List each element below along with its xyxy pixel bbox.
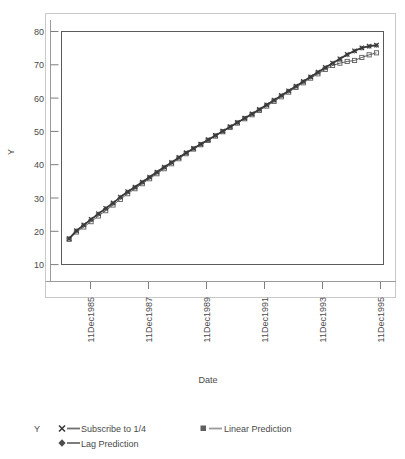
y-tick-label: 80 bbox=[34, 27, 44, 37]
y-axis-ticks: 80 70 60 50 40 30 20 10 bbox=[34, 27, 59, 270]
square-icon bbox=[201, 426, 207, 432]
y-tick-label: 60 bbox=[34, 94, 44, 104]
x-tick-label: 11Dec1991 bbox=[260, 297, 270, 342]
chart-svg: 80 70 60 50 40 30 20 10 Y bbox=[0, 0, 405, 459]
legend-item-lag[interactable]: Lag Prediction bbox=[58, 439, 138, 449]
y-tick-label: 30 bbox=[34, 194, 44, 204]
x-axis-ticks bbox=[91, 282, 381, 289]
y-tick-label: 10 bbox=[34, 260, 44, 270]
cross-icon bbox=[59, 426, 65, 432]
legend-item-linear[interactable]: Linear Prediction bbox=[201, 424, 292, 434]
legend-item-subscribe[interactable]: Subscribe to 1/4 bbox=[59, 424, 146, 434]
diamond-icon bbox=[58, 439, 65, 447]
y-tick-label: 20 bbox=[34, 227, 44, 237]
y-tick-label: 40 bbox=[34, 160, 44, 170]
y-axis-title: Y bbox=[6, 149, 16, 155]
y-tick-label: 50 bbox=[34, 127, 44, 137]
legend-label-linear: Linear Prediction bbox=[224, 424, 292, 434]
x-tick-label: 11Dec1987 bbox=[144, 297, 154, 342]
x-tick-label: 11Dec1985 bbox=[86, 297, 96, 342]
x-tick-label: 11Dec1989 bbox=[202, 297, 212, 342]
chart-legend: Y Subscribe to 1/4 Linear Prediction Lag… bbox=[34, 424, 292, 449]
x-tick-label: 11Dec1995 bbox=[376, 297, 386, 342]
plot-frame bbox=[62, 32, 384, 265]
legend-label-subscribe: Subscribe to 1/4 bbox=[81, 424, 146, 434]
y-tick-label: 70 bbox=[34, 60, 44, 70]
x-axis-title: Date bbox=[198, 375, 217, 385]
legend-label-lag: Lag Prediction bbox=[81, 439, 139, 449]
legend-title: Y bbox=[34, 424, 40, 434]
x-axis-tick-labels: 11Dec1985 11Dec1987 11Dec1989 11Dec1991 … bbox=[86, 297, 386, 342]
x-tick-label: 11Dec1993 bbox=[318, 297, 328, 342]
chart-figure: 80 70 60 50 40 30 20 10 Y bbox=[0, 0, 405, 459]
